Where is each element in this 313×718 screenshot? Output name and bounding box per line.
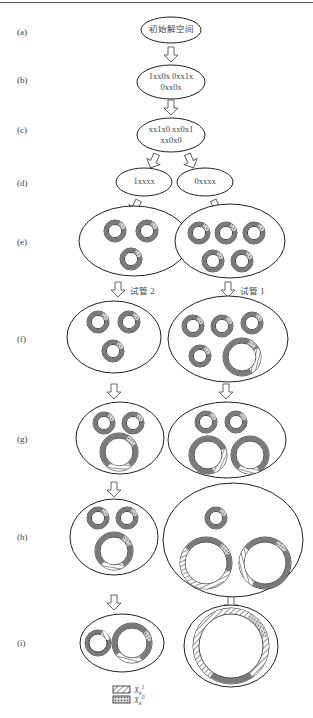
node-b-line2: 0xx0x — [137, 82, 205, 93]
node-d-right: 0xxxx — [177, 176, 233, 187]
node-c-line2: xx0x0 — [137, 135, 205, 146]
node-d-left: 1xxxx — [116, 176, 172, 187]
tube-label-right: 试管 1 — [240, 284, 264, 296]
node-b-line1: 1xx0x 0xx1x — [137, 71, 205, 82]
diagram-canvas — [0, 0, 313, 718]
tube-label-left: 试管 2 — [130, 284, 154, 296]
legend-swatch-cross — [113, 696, 130, 703]
legend-swatch-hatch — [113, 686, 130, 693]
node-initial-space: 初始解空间 — [141, 24, 201, 35]
node-c-line1: xx1x0 xx0x1 — [137, 124, 205, 135]
legend-label-xk0: Xk0 — [134, 694, 145, 706]
